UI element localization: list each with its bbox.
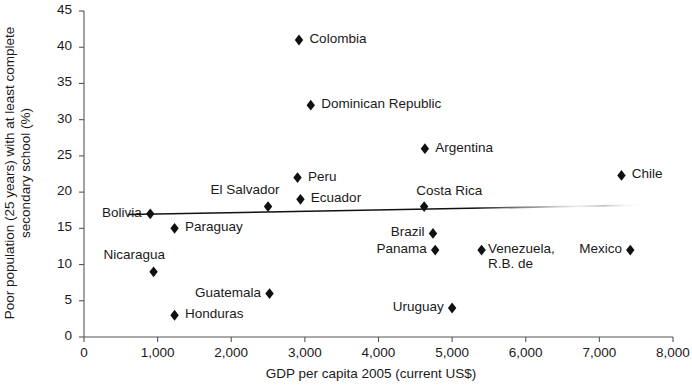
data-point-label: Brazil [391,224,425,239]
data-point-label: El Salvador [210,182,279,197]
x-tick-label: 5,000 [422,345,482,360]
data-point-marker[interactable] [448,303,456,314]
y-tick-label: 40 [32,38,72,53]
y-tick-label: 0 [32,328,72,343]
data-point-marker[interactable] [429,228,437,239]
data-point-label: Ecuador [311,190,361,205]
data-point-marker[interactable] [626,245,634,256]
y-tick-label: 20 [32,183,72,198]
data-markers [146,35,634,321]
data-point-marker[interactable] [307,100,315,111]
data-point-marker[interactable] [295,35,303,46]
data-point-marker[interactable] [170,223,178,234]
x-tick-label: 1,000 [128,345,188,360]
data-point-marker[interactable] [293,172,301,183]
trend-line-path [128,205,640,214]
y-tick-label: 15 [32,219,72,234]
scatter-chart: Poor population (25 years) with at least… [0,0,692,391]
data-point-label: Peru [308,169,337,184]
x-tick-label: 7,000 [569,345,629,360]
x-tick-label: 6,000 [496,345,556,360]
data-point-label: Nicaragua [103,247,165,262]
y-axis-ticks [79,11,84,337]
data-point-label: Guatemala [195,285,261,300]
data-point-marker[interactable] [170,310,178,321]
y-tick-label: 25 [32,147,72,162]
axis-lines [84,11,673,337]
x-tick-label: 3,000 [275,345,335,360]
y-tick-label: 45 [32,2,72,17]
x-tick-label: 2,000 [201,345,261,360]
y-axis-title: Poor population (25 years) with at least… [2,0,36,348]
data-point-marker[interactable] [264,201,272,212]
x-tick-label: 0 [54,345,114,360]
data-point-label: Honduras [185,306,244,321]
data-point-label: Venezuela, R.B. de [488,241,555,271]
data-point-label: Chile [632,166,663,181]
data-point-label: Bolivia [102,205,142,220]
data-point-marker[interactable] [146,208,154,219]
data-point-marker[interactable] [149,266,157,277]
data-point-label: Costa Rica [416,183,482,198]
y-tick-label: 35 [32,74,72,89]
data-point-marker[interactable] [431,245,439,256]
y-tick-label: 30 [32,111,72,126]
x-axis-title: GDP per capita 2005 (current US$) [0,366,692,381]
data-point-marker[interactable] [477,245,485,256]
y-tick-label: 5 [32,292,72,307]
data-point-marker[interactable] [296,194,304,205]
data-point-marker[interactable] [617,170,625,181]
data-point-label: Uruguay [393,299,444,314]
data-point-label: Mexico [579,241,622,256]
x-tick-label: 4,000 [349,345,409,360]
data-point-label: Paraguay [185,219,243,234]
data-point-marker[interactable] [421,143,429,154]
trend-line [128,205,640,214]
data-point-label: Panama [377,241,427,256]
data-point-label: Dominican Republic [321,96,441,111]
data-point-marker[interactable] [420,201,428,212]
x-tick-label: 8,000 [643,345,692,360]
data-point-label: Argentina [435,140,493,155]
data-point-label: Colombia [309,31,366,46]
x-axis-ticks [84,337,673,342]
y-tick-label: 10 [32,256,72,271]
data-point-marker[interactable] [265,288,273,299]
